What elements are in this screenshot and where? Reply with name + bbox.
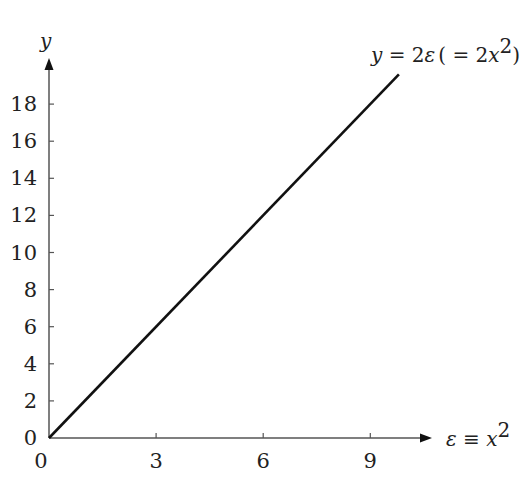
series-line [49,74,399,438]
y-axis-label: y [39,29,52,53]
y-tick-label: 2 [24,389,37,413]
y-tick-label: 14 [10,166,37,190]
y-axis-arrow-icon [45,58,54,70]
y-tick-label: 18 [10,92,37,116]
y-tick-label: 4 [24,352,37,376]
x-axis-ticks: 369 [149,433,377,473]
x-tick-label: 6 [257,449,270,473]
y-axis-ticks: 024681012141618 [10,92,54,450]
series-annotation: y = 2ε( = 2x2) [370,34,520,67]
y-tick-label: 0 [24,426,37,450]
y-tick-label: 16 [10,129,37,153]
y-tick-label: 8 [24,278,37,302]
y-tick-label: 6 [24,315,37,339]
x-tick-label: 9 [364,449,377,473]
x-axis-label: ε ≡ x2 [446,418,510,451]
chart: 024681012141618 369 y 0 ε ≡ x2 y = 2ε( =… [0,0,523,493]
x-tick-label: 3 [149,449,162,473]
y-tick-label: 10 [10,241,37,265]
y-tick-label: 12 [10,203,37,227]
x-axis-arrow-icon [420,434,432,443]
x-origin-label: 0 [34,449,47,473]
